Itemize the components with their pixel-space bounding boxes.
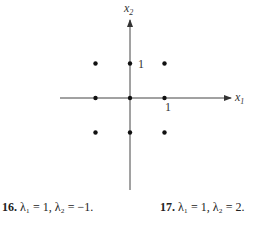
lattice-point [93,61,97,65]
lattice-point [128,96,132,100]
lattice-point [128,130,132,134]
exercise-number: 16. [2,200,17,214]
x-tick-label: 1 [165,100,171,115]
y-tick-label: 1 [138,57,144,72]
lattice-point [162,130,166,134]
exercise-text: λ₁ = 1, λ₂ = 2. [178,200,245,214]
x-axis-label: x1 [235,90,244,106]
exercise-text: λ₁ = 1, λ₂ = −1. [20,200,93,214]
lattice-point [93,130,97,134]
exercise-number: 17. [160,200,175,214]
y-axis-label: x2 [124,1,133,17]
exercise-17: 17. λ₁ = 1, λ₂ = 2. [160,200,245,215]
lattice-diagram [0,0,258,226]
lattice-point [93,96,97,100]
lattice-point [162,61,166,65]
lattice-point [128,61,132,65]
exercise-16: 16. λ₁ = 1, λ₂ = −1. [2,200,93,215]
